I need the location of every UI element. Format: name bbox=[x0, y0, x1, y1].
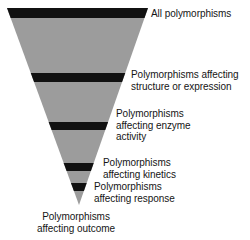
label-structure-or-expression: Polymorphisms affecting structure or exp… bbox=[131, 69, 239, 92]
label-response: Polymorphisms affecting response bbox=[94, 181, 175, 204]
label-all-polymorphisms: All polymorphisms bbox=[151, 8, 231, 20]
label-enzyme-activity: Polymorphisms affecting enzyme activity bbox=[116, 108, 191, 143]
diagram-canvas: All polymorphisms Polymorphisms affectin… bbox=[0, 0, 250, 240]
label-kinetics: Polymorphisms affecting kinetics bbox=[103, 157, 176, 180]
label-outcome: Polymorphisms affecting outcome bbox=[20, 211, 132, 234]
